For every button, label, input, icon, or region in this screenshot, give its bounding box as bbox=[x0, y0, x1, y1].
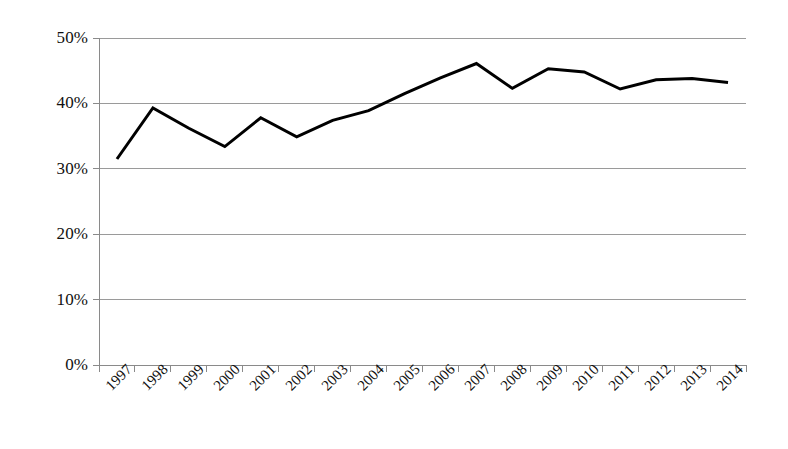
x-axis-tick-label: 1999 bbox=[175, 362, 207, 394]
x-axis-tick-label: 2009 bbox=[534, 362, 566, 394]
x-axis-tick-label: 1998 bbox=[139, 362, 171, 394]
x-axis-tick-label: 2011 bbox=[606, 362, 637, 393]
x-axis-tick-label: 1997 bbox=[103, 362, 135, 394]
x-axis-tick-label: 2002 bbox=[283, 362, 315, 394]
x-axis-tick-label: 2000 bbox=[211, 362, 243, 394]
x-axis-tick-label: 2003 bbox=[319, 362, 351, 394]
x-axis-tick-label: 2012 bbox=[642, 362, 674, 394]
line-chart: 0%10%20%30%40%50% 1997199819992000200120… bbox=[0, 0, 788, 449]
x-axis-tick-label: 2010 bbox=[570, 362, 602, 394]
x-axis-tick-label: 2001 bbox=[247, 362, 279, 394]
x-axis-tick-label: 2007 bbox=[462, 362, 494, 394]
x-axis-tick-label: 2005 bbox=[391, 362, 423, 394]
x-axis-tick-label: 2004 bbox=[355, 362, 387, 394]
x-axis-tick-label: 2014 bbox=[714, 362, 746, 394]
x-axis-tick-label: 2006 bbox=[426, 362, 458, 394]
x-axis-tick-labels: 1997199819992000200120022003200420052006… bbox=[0, 0, 788, 449]
x-axis-tick-label: 2013 bbox=[678, 362, 710, 394]
x-axis-tick-label: 2008 bbox=[498, 362, 530, 394]
